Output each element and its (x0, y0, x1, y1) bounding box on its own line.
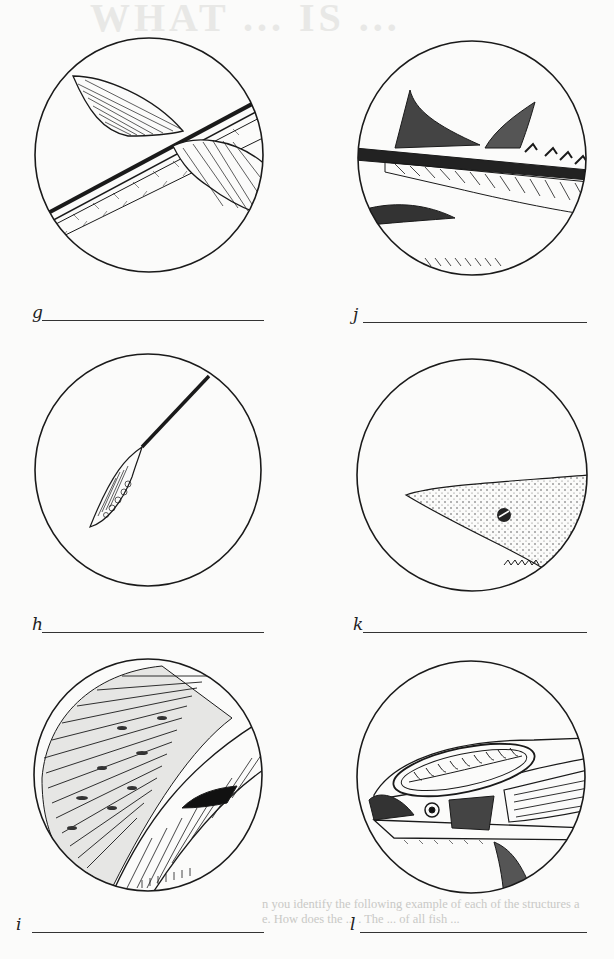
sailfish-dorsal-fin-illustration (32, 658, 266, 894)
answer-line-g[interactable]: g (32, 300, 264, 324)
answer-line-i[interactable]: i (16, 912, 264, 936)
blank-line (363, 632, 587, 633)
shark-head-illustration (354, 357, 588, 595)
answer-line-k[interactable]: k (353, 612, 587, 636)
figure-label-l: l (350, 914, 355, 934)
answer-line-h[interactable]: h (32, 612, 264, 636)
figure-h (32, 352, 266, 590)
figure-label-j: j (353, 304, 358, 324)
blank-line (32, 932, 264, 933)
figure-l (354, 660, 588, 896)
figure-k (354, 357, 588, 595)
blank-line (363, 322, 587, 323)
bleed-through-line-1: n you identify the following example of … (262, 897, 580, 912)
bleed-through-heading: WHAT ... IS ... (90, 0, 401, 41)
figure-label-i: i (16, 914, 21, 934)
tail-filament-illustration (32, 352, 266, 590)
figure-label-k: k (353, 614, 363, 634)
flying-fish-fin-illustration (33, 36, 267, 276)
mackerel-dorsal-finlets-illustration (355, 40, 589, 278)
figure-label-h: h (32, 614, 43, 634)
figure-j (355, 40, 589, 278)
answer-line-j[interactable]: j (353, 302, 587, 326)
figure-i (32, 658, 266, 894)
blank-line (42, 632, 264, 633)
figure-label-g: g (32, 302, 43, 322)
blank-line (360, 932, 587, 933)
remora-suction-disc-illustration (354, 660, 588, 896)
blank-line (42, 320, 264, 321)
figure-g (33, 36, 267, 276)
answer-line-l[interactable]: l (350, 912, 587, 936)
